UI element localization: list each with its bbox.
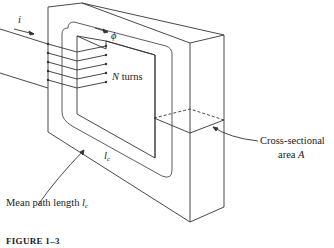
- turns-var: N: [112, 71, 119, 82]
- core-depth-edges: [82, 3, 224, 222]
- turns-label: N turns: [112, 72, 143, 83]
- figure-caption: FIGURE 1–3: [6, 236, 60, 246]
- cross-section-front: [154, 118, 224, 133]
- cross-section-var: A: [298, 149, 304, 160]
- cross-section-label-line1: Cross-sectional: [260, 136, 325, 147]
- magnetic-core-diagram: [0, 0, 334, 248]
- mean-path-label: Mean path length lc: [6, 198, 88, 210]
- coil-wire-out: [0, 73, 48, 88]
- mean-path-text: Mean path length: [6, 197, 82, 208]
- cross-section-back: [154, 109, 224, 120]
- current-label: i: [18, 15, 21, 26]
- mean-path-sub: c: [85, 202, 88, 210]
- flux-label: ϕ: [111, 31, 116, 42]
- core-length-sub: c: [107, 155, 110, 163]
- mean-path: [62, 22, 172, 177]
- cross-section-text: area: [278, 149, 298, 160]
- turns-text: turns: [119, 71, 143, 82]
- cross-section-label-line2: area A: [278, 150, 305, 161]
- cross-section-leader: [213, 127, 258, 141]
- core-outer-front: [48, 3, 190, 222]
- core-inner-window: [77, 36, 155, 158]
- core-length-label: lc: [104, 151, 110, 163]
